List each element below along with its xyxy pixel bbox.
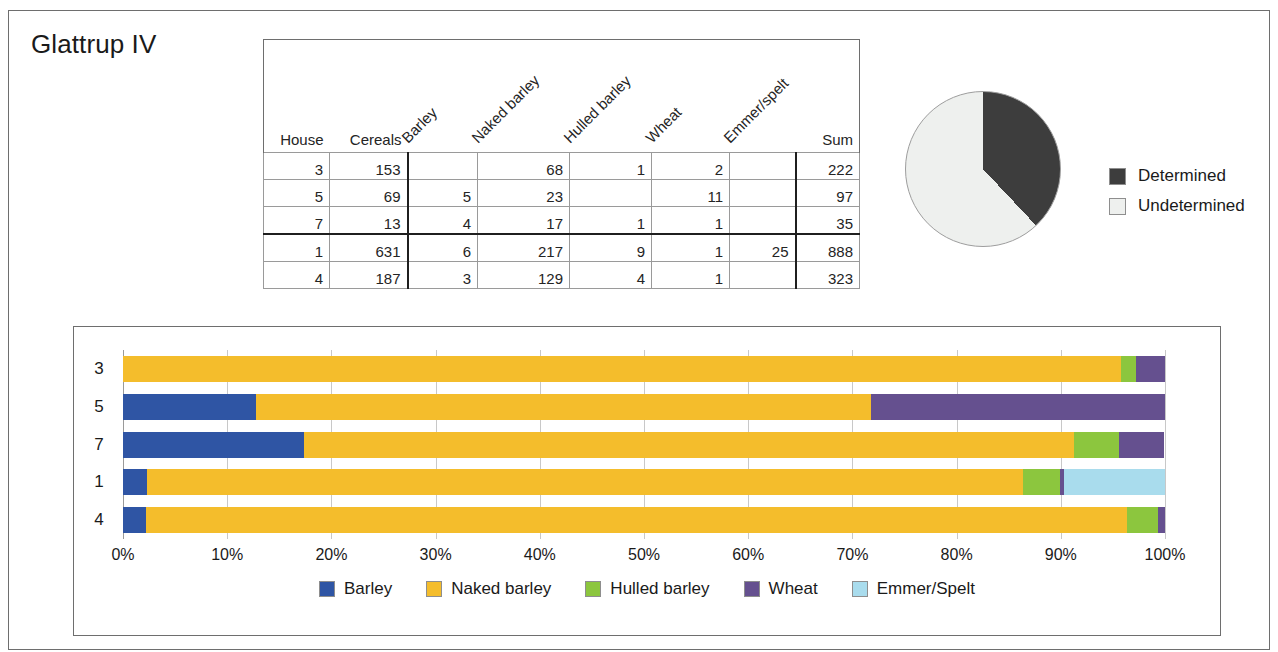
- cell-cereals: 187: [330, 262, 408, 289]
- cell-wheat: 1: [652, 207, 730, 235]
- cell-naked_barley: 68: [478, 153, 570, 180]
- header-hulled-barley-label: Hulled barley: [559, 72, 633, 146]
- x-tick-label: 20%: [315, 546, 347, 564]
- cell-barley: 6: [408, 234, 478, 262]
- bar-chart-legend: BarleyNaked barleyHulled barleyWheatEmme…: [74, 579, 1220, 599]
- cell-wheat: 11: [652, 180, 730, 207]
- cell-barley: 4: [408, 207, 478, 235]
- cell-house: 5: [264, 180, 330, 207]
- legend-item-hulled-barley[interactable]: Hulled barley: [585, 579, 709, 599]
- legend-item-barley[interactable]: Barley: [319, 579, 392, 599]
- determination-pie-block: Determined Undetermined: [897, 89, 1257, 261]
- bar-segment-hulled-barley[interactable]: [1121, 356, 1136, 382]
- cell-barley: 5: [408, 180, 478, 207]
- bar-segment-emmer-spelt[interactable]: [1064, 469, 1165, 495]
- pie-swatch-determined: [1109, 168, 1126, 185]
- legend-item-emmer-spelt[interactable]: Emmer/Spelt: [852, 579, 975, 599]
- cell-cereals: 69: [330, 180, 408, 207]
- bar-segment-naked-barley[interactable]: [256, 394, 871, 420]
- cell-naked_barley: 23: [478, 180, 570, 207]
- cell-cereals: 153: [330, 153, 408, 180]
- cell-emmer_spelt: [730, 207, 796, 235]
- x-tick-label: 10%: [211, 546, 243, 564]
- legend-swatch: [852, 581, 868, 597]
- cell-sum: 35: [796, 207, 860, 235]
- pie-legend-label-determined: Determined: [1138, 166, 1226, 186]
- y-axis-label-house-5: 5: [79, 397, 119, 417]
- cell-emmer_spelt: [730, 180, 796, 207]
- cell-emmer_spelt: [730, 153, 796, 180]
- bar-segment-naked-barley[interactable]: [146, 507, 1128, 533]
- bar-segment-barley[interactable]: [123, 432, 304, 458]
- cell-cereals: 631: [330, 234, 408, 262]
- cell-hulled_barley: 1: [570, 153, 652, 180]
- table-row: 4187312941323: [264, 262, 860, 289]
- pie-legend: Determined Undetermined: [1109, 161, 1245, 221]
- x-tick-label: 60%: [732, 546, 764, 564]
- table-body: 3153681222256952311977134171135163162179…: [264, 153, 860, 289]
- cell-cereals: 13: [330, 207, 408, 235]
- bar-segment-barley[interactable]: [123, 469, 147, 495]
- bar-segment-wheat[interactable]: [1119, 432, 1164, 458]
- gridline: [1165, 350, 1166, 539]
- cell-naked_barley: 129: [478, 262, 570, 289]
- bar-chart-plot-area: 35714 0%10%20%30%40%50%60%70%80%90%100%: [123, 350, 1165, 539]
- page-title: Glattrup IV: [31, 29, 156, 60]
- bar-segment-hulled-barley[interactable]: [1074, 432, 1119, 458]
- bar-segment-naked-barley[interactable]: [304, 432, 1074, 458]
- legend-item-wheat[interactable]: Wheat: [744, 579, 818, 599]
- cell-naked_barley: 17: [478, 207, 570, 235]
- cell-house: 4: [264, 262, 330, 289]
- legend-item-naked-barley[interactable]: Naked barley: [426, 579, 551, 599]
- header-house: House: [264, 40, 330, 153]
- legend-label: Emmer/Spelt: [877, 579, 975, 599]
- legend-label: Naked barley: [451, 579, 551, 599]
- bar-segment-hulled-barley[interactable]: [1023, 469, 1059, 495]
- bar-segment-wheat[interactable]: [1136, 356, 1165, 382]
- cell-emmer_spelt: 25: [730, 234, 796, 262]
- bar-segment-barley[interactable]: [123, 394, 256, 420]
- cell-wheat: 1: [652, 262, 730, 289]
- y-axis-label-house-7: 7: [79, 435, 119, 455]
- x-tick-label: 80%: [941, 546, 973, 564]
- cell-sum: 222: [796, 153, 860, 180]
- bar-row: [123, 469, 1165, 495]
- cell-naked_barley: 217: [478, 234, 570, 262]
- header-cereals: Cereals: [330, 40, 408, 153]
- y-axis-label-house-3: 3: [79, 359, 119, 379]
- cell-sum: 97: [796, 180, 860, 207]
- table-row: 31536812222: [264, 153, 860, 180]
- bar-row: [123, 507, 1165, 533]
- table-row: 163162179125888: [264, 234, 860, 262]
- bar-segment-naked-barley[interactable]: [123, 356, 1121, 382]
- legend-label: Wheat: [769, 579, 818, 599]
- cereal-counts-table-wrapper: House Cereals Barley Naked barley Hulled…: [263, 39, 859, 307]
- x-tick-label: 70%: [836, 546, 868, 564]
- x-tick-label: 40%: [524, 546, 556, 564]
- bar-segment-wheat[interactable]: [1158, 507, 1165, 533]
- header-wheat: Wheat: [652, 40, 730, 153]
- table-row: 5695231197: [264, 180, 860, 207]
- bar-segment-naked-barley[interactable]: [147, 469, 1023, 495]
- cell-hulled_barley: [570, 180, 652, 207]
- y-axis-label-house-1: 1: [79, 472, 119, 492]
- bar-row: [123, 394, 1165, 420]
- table-header-row: House Cereals Barley Naked barley Hulled…: [264, 40, 860, 153]
- bar-segment-hulled-barley[interactable]: [1127, 507, 1157, 533]
- y-axis-label-house-4: 4: [79, 510, 119, 530]
- cell-wheat: 1: [652, 234, 730, 262]
- cell-house: 7: [264, 207, 330, 235]
- header-sum: Sum: [796, 40, 860, 153]
- bar-segment-barley[interactable]: [123, 507, 146, 533]
- bar-segment-wheat[interactable]: [871, 394, 1165, 420]
- legend-label: Hulled barley: [610, 579, 709, 599]
- header-barley: Barley: [408, 40, 478, 153]
- legend-swatch: [585, 581, 601, 597]
- pie-swatch-undetermined: [1109, 198, 1126, 215]
- cell-hulled_barley: 9: [570, 234, 652, 262]
- x-tick-label: 90%: [1045, 546, 1077, 564]
- table-row: 7134171135: [264, 207, 860, 235]
- cell-house: 3: [264, 153, 330, 180]
- x-tick-label: 30%: [420, 546, 452, 564]
- x-tick-label: 100%: [1145, 546, 1186, 564]
